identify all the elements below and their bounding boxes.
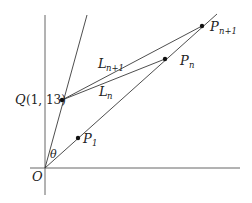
origin-label: O <box>32 169 43 184</box>
label-Ln: L n <box>98 84 112 101</box>
label-Pn: P n <box>179 53 194 70</box>
label-Q-name: Q <box>15 92 26 107</box>
label-P1-sub: 1 <box>92 138 97 148</box>
diagram-canvas: O θ Q (1, 13) P 1 P n P n+1 L n+1 L n <box>0 0 252 203</box>
label-Ln-sub: n <box>107 91 112 101</box>
label-Pn-sub: n <box>189 60 194 70</box>
label-Pn1: P n+1 <box>209 19 237 36</box>
label-Q-coords: (1, 13) <box>26 93 66 107</box>
point-Pn <box>163 57 167 61</box>
angle-theta-label: θ <box>50 148 57 161</box>
label-Q: Q (1, 13) <box>15 92 66 107</box>
label-Ln1: L n+1 <box>97 56 124 73</box>
line-OQ <box>45 15 87 168</box>
label-Pn1-sub: n+1 <box>219 26 237 36</box>
point-Pn1 <box>200 24 204 28</box>
point-P1 <box>76 136 80 140</box>
label-P1-name: P <box>82 131 92 146</box>
label-Ln1-sub: n+1 <box>106 63 124 73</box>
label-Pn-name: P <box>179 53 189 68</box>
ray-OP <box>45 14 217 168</box>
label-P1: P 1 <box>82 131 97 148</box>
label-Pn1-name: P <box>209 19 219 34</box>
